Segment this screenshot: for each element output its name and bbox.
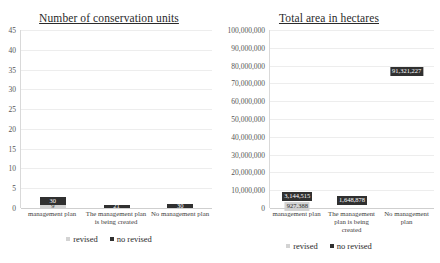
legend-right: revised no revised [218, 241, 440, 251]
x-axis-category-label: management plan [20, 210, 84, 226]
y-axis-tick-label: 0 [12, 204, 16, 213]
y-axis-right: 100,000,00090,000,00080,000,00070,000,00… [218, 30, 265, 208]
y-axis-tick-label: 30 [9, 85, 17, 94]
x-axis-category-label: No management plan [379, 210, 434, 233]
gridline [21, 129, 212, 130]
y-axis-tick-label: 0 [261, 204, 265, 213]
legend-item-no-revised[interactable]: no revised [330, 241, 372, 251]
y-axis-tick-label: 45 [9, 26, 17, 35]
bar-value-callout-no-revised: 1,648,878 [337, 196, 367, 205]
plot-area-left: 454035302520151050 3092130 [0, 30, 218, 208]
legend-label-revised: revised [73, 234, 98, 244]
y-axis-tick-label: 10,000,000 [231, 186, 265, 195]
axis-baseline [270, 208, 434, 209]
legend-swatch-revised-icon [66, 237, 70, 241]
legend-item-revised[interactable]: revised [286, 241, 318, 251]
gridline [21, 109, 212, 110]
y-axis-tick-label: 80,000,000 [231, 61, 265, 70]
y-axis-tick-label: 20 [9, 124, 17, 133]
y-axis-tick-label: 30,000,000 [231, 150, 265, 159]
y-axis-tick-label: 40,000,000 [231, 132, 265, 141]
legend-item-revised[interactable]: revised [66, 234, 98, 244]
y-axis-tick-label: 5 [12, 184, 16, 193]
x-axis-category-label: No management plan [148, 210, 212, 226]
gridline [270, 66, 434, 67]
y-axis-tick-label: 25 [9, 105, 17, 114]
legend-swatch-no-revised-icon [110, 237, 114, 241]
chart-title-right: Total area in hectares [218, 12, 440, 24]
gridline [270, 137, 434, 138]
gridline [21, 168, 212, 169]
plot-area-right: 100,000,00090,000,00080,000,00070,000,00… [218, 30, 440, 208]
gridline [21, 89, 212, 90]
bar-value-callout-no-revised: 91,321,227 [390, 67, 423, 76]
bar-slot: 309 [21, 30, 85, 208]
x-axis-category-label: management plan [269, 210, 324, 233]
gridlines-right: 3,144,515927,3881,648,87891,321,227 [269, 30, 434, 208]
axis-baseline [21, 208, 212, 209]
y-axis-left: 454035302520151050 [0, 30, 16, 208]
gridline [270, 119, 434, 120]
legend-label-revised: revised [293, 241, 318, 251]
x-axis-category-label: The management plan is being created [84, 210, 148, 226]
gridline [270, 101, 434, 102]
x-axis-category-label: The management plan is being created [324, 210, 379, 233]
y-axis-tick-label: 35 [9, 65, 17, 74]
gridline [270, 190, 434, 191]
gridline [270, 155, 434, 156]
gridline [21, 188, 212, 189]
chart-title-left: Number of conservation units [0, 12, 218, 24]
legend-label-no-revised: no revised [117, 234, 152, 244]
gridline [270, 48, 434, 49]
gridline [270, 172, 434, 173]
y-axis-tick-label: 10 [9, 164, 17, 173]
stacked-bar[interactable]: 309 [40, 195, 66, 208]
gridline [270, 83, 434, 84]
chart-number-of-conservation-units: Number of conservation units 45403530252… [0, 0, 218, 263]
legend-left: revised no revised [0, 234, 218, 244]
y-axis-tick-label: 15 [9, 144, 17, 153]
y-axis-tick-label: 60,000,000 [231, 97, 265, 106]
bar-slot: 30 [148, 30, 212, 208]
x-axis-left: management planThe management plan is be… [20, 210, 212, 226]
gridlines-left: 3092130 [20, 30, 212, 208]
gridline [21, 50, 212, 51]
gridline [270, 30, 434, 31]
y-axis-tick-label: 40 [9, 45, 17, 54]
gridline [21, 149, 212, 150]
legend-swatch-no-revised-icon [330, 244, 334, 248]
y-axis-tick-label: 70,000,000 [231, 79, 265, 88]
y-axis-tick-label: 20,000,000 [231, 168, 265, 177]
gridline [21, 70, 212, 71]
bar-slot: 21 [85, 30, 149, 208]
chart-total-area-in-hectares: Total area in hectares 100,000,00090,000… [218, 0, 440, 263]
gridline [21, 30, 212, 31]
bar-value-callout-no-revised: 3,144,515 [282, 192, 312, 201]
y-axis-tick-label: 50,000,000 [231, 115, 265, 124]
legend-label-no-revised: no revised [337, 241, 372, 251]
y-axis-tick-label: 100,000,000 [228, 26, 266, 35]
y-axis-tick-label: 90,000,000 [231, 43, 265, 52]
x-axis-right: management planThe management plan is be… [269, 210, 434, 233]
legend-item-no-revised[interactable]: no revised [110, 234, 152, 244]
legend-swatch-revised-icon [286, 244, 290, 248]
bar-group-left: 3092130 [21, 30, 212, 208]
